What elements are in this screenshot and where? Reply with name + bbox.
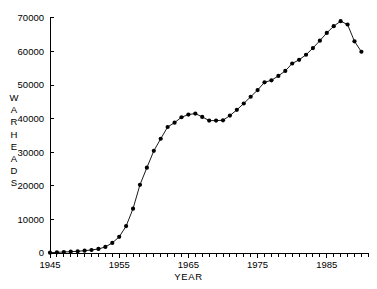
data-point	[55, 250, 59, 254]
data-point	[117, 235, 121, 239]
data-point	[103, 245, 107, 249]
chart-figure: 010000200003000040000500006000070000 194…	[0, 0, 377, 289]
data-point	[242, 101, 246, 105]
line-chart-plot: 010000200003000040000500006000070000 194…	[0, 0, 377, 289]
data-point	[200, 115, 204, 119]
y-axis-tick-label: 70000	[18, 12, 44, 23]
data-point	[138, 183, 142, 187]
y-axis-tick-label: 0	[39, 247, 44, 258]
data-point	[283, 69, 287, 73]
data-point	[172, 121, 176, 125]
data-point	[262, 80, 266, 84]
y-axis-title-letter: W	[10, 92, 19, 104]
y-axis-title-letter: R	[11, 116, 18, 128]
data-point	[166, 125, 170, 129]
data-point	[48, 251, 52, 255]
data-point	[186, 112, 190, 116]
data-point	[359, 50, 363, 54]
data-point	[76, 249, 80, 253]
data-point	[311, 46, 315, 50]
data-point	[325, 31, 329, 35]
chart-background	[0, 0, 377, 289]
data-point	[69, 250, 73, 254]
data-point	[256, 88, 260, 92]
data-point	[352, 39, 356, 43]
data-point	[145, 166, 149, 170]
x-axis-title: YEAR	[0, 271, 377, 282]
data-point	[290, 61, 294, 65]
data-point	[159, 137, 163, 141]
y-axis-title-letter: A	[11, 104, 17, 116]
y-axis-tick-label: 10000	[18, 214, 44, 225]
data-point	[214, 119, 218, 123]
y-axis-title-letter: D	[11, 165, 18, 177]
data-point	[83, 249, 87, 253]
y-axis-title: W A R H E A D S	[6, 92, 22, 190]
x-axis-tick-label: 1945	[39, 259, 60, 270]
x-axis-tick-label: 1985	[316, 259, 337, 270]
y-axis-title-letter: E	[11, 141, 17, 153]
data-point	[152, 149, 156, 153]
data-point	[131, 207, 135, 211]
data-point	[179, 115, 183, 119]
y-axis-tick-label: 60000	[18, 46, 44, 57]
data-point	[96, 247, 100, 251]
y-axis-title-letter: A	[11, 153, 17, 165]
data-point	[228, 113, 232, 117]
data-point	[318, 39, 322, 43]
data-point	[221, 118, 225, 122]
data-point	[89, 248, 93, 252]
data-point	[332, 24, 336, 28]
data-point	[276, 74, 280, 78]
data-point	[193, 111, 197, 115]
x-axis-tick-label: 1975	[247, 259, 268, 270]
data-point	[62, 250, 66, 254]
data-point	[124, 224, 128, 228]
x-axis-tick-label: 1965	[178, 259, 199, 270]
y-axis-title-letter: S	[11, 177, 17, 189]
data-point	[249, 95, 253, 99]
data-point	[207, 119, 211, 123]
y-axis-tick-label: 50000	[18, 79, 44, 90]
data-point	[235, 108, 239, 112]
data-point	[110, 241, 114, 245]
data-point	[304, 53, 308, 57]
data-point	[297, 58, 301, 62]
y-axis-title-letter: H	[11, 129, 18, 141]
data-point	[345, 22, 349, 26]
data-point	[339, 19, 343, 23]
data-point	[269, 78, 273, 82]
x-axis-tick-label: 1955	[109, 259, 130, 270]
